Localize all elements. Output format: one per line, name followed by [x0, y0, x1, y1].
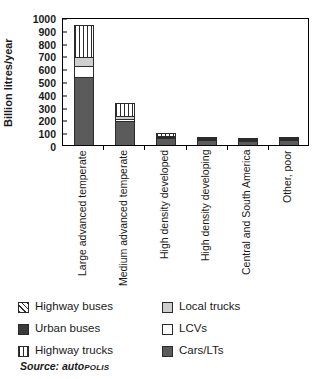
- legend-item: Urban buses: [18, 323, 154, 335]
- y-tick-mark: [63, 95, 67, 96]
- y-tick-label: 900: [38, 27, 63, 38]
- y-tick-mark: [63, 44, 67, 45]
- y-tick-label: 100: [38, 129, 63, 140]
- legend-item: Cars/LTs: [162, 345, 298, 357]
- y-tick-label: 1000: [33, 14, 63, 25]
- legend-item: LCVs: [162, 323, 298, 335]
- y-tick-mark: [63, 83, 67, 84]
- legend-label: LCVs: [179, 323, 207, 335]
- y-tick-label: 400: [38, 91, 63, 102]
- bar: [156, 133, 176, 145]
- legend-item: Highway buses: [18, 301, 154, 313]
- plot-wrapper: 10009008007006005004003002001000: [62, 18, 309, 146]
- legend-swatch-icon: [162, 346, 173, 357]
- y-tick-mark: [63, 134, 67, 135]
- legend-swatch-icon: [162, 302, 173, 313]
- legend-swatch-icon: [18, 302, 29, 313]
- y-tick-label: 300: [38, 103, 63, 114]
- y-tick-label: 800: [38, 39, 63, 50]
- bar-segment: [74, 77, 94, 145]
- bar-segment: [115, 121, 135, 145]
- bar-segment: [74, 25, 94, 57]
- legend-label: Local trucks: [179, 301, 240, 313]
- bar-segment: [74, 66, 94, 78]
- y-tick-mark: [63, 121, 67, 122]
- bar-segment: [74, 57, 94, 66]
- bar-segment: [156, 138, 176, 145]
- bar-segment: [279, 140, 299, 145]
- y-tick-mark: [63, 19, 67, 20]
- bar-segment: [197, 140, 217, 145]
- x-axis-labels: Large advanced temperateMedium advanced …: [62, 150, 309, 288]
- chart: Billion litres/year 10009008007006005004…: [0, 0, 321, 290]
- x-axis-category-label: Medium advanced temperate: [117, 150, 130, 286]
- legend-item: Local trucks: [162, 301, 298, 313]
- legend-label: Highway buses: [35, 301, 113, 313]
- legend-swatch-icon: [18, 324, 29, 335]
- x-axis-category-label: Other, poor: [281, 150, 294, 286]
- y-tick-label: 700: [38, 52, 63, 63]
- bar: [74, 25, 94, 145]
- bar: [279, 137, 299, 145]
- source-prefix: Source: auto: [20, 360, 84, 372]
- bar-segment: [238, 141, 258, 145]
- legend-swatch-icon: [162, 324, 173, 335]
- y-tick-mark: [63, 70, 67, 71]
- x-axis-category-label: Central and South America: [240, 150, 253, 286]
- legend-item: Highway trucks: [18, 345, 154, 357]
- bar: [197, 137, 217, 145]
- y-tick-label: 600: [38, 65, 63, 76]
- legend-swatch-icon: [18, 346, 29, 357]
- y-tick-label: 200: [38, 116, 63, 127]
- source-smallcaps: POLIS: [84, 363, 109, 372]
- plot-area: 10009008007006005004003002001000: [62, 18, 309, 146]
- legend: Highway busesLocal trucksUrban busesLCVs…: [18, 296, 308, 362]
- y-tick-mark: [63, 31, 67, 32]
- legend-label: Highway trucks: [35, 345, 113, 357]
- x-axis-category-label: Large advanced temperate: [76, 150, 89, 286]
- x-axis-category-label: High density developed: [158, 150, 171, 286]
- bar-segment: [115, 103, 135, 116]
- source-note: Source: autoPOLIS: [20, 360, 109, 372]
- y-tick-mark: [63, 57, 67, 58]
- y-axis-title: Billion litres/year: [2, 18, 18, 148]
- legend-label: Urban buses: [35, 323, 100, 335]
- y-tick-mark: [63, 108, 67, 109]
- bar: [238, 138, 258, 145]
- legend-label: Cars/LTs: [179, 345, 224, 357]
- y-tick-label: 500: [38, 78, 63, 89]
- x-axis-category-label: High density developing: [199, 150, 212, 286]
- bar: [115, 103, 135, 145]
